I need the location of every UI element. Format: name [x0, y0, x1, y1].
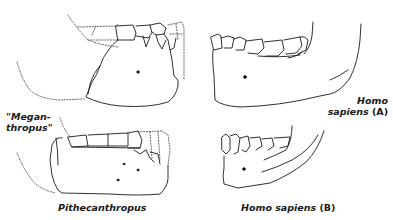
meganthropus-label: "Megan- thropus" — [6, 111, 53, 133]
homo-sapiens-a-label-line1: Homo — [328, 95, 388, 106]
meganthropus-label-line1: "Megan- — [6, 111, 53, 122]
homo-sapiens-a-label-line2: sapiens (A) — [328, 106, 388, 117]
jaw-comparison-figure: "Megan- thropus" Pithecanthropus Homo sa… — [0, 0, 393, 220]
homo-sapiens-b-suffix: (B) — [320, 202, 336, 213]
homo-sapiens-a-suffix: (A) — [372, 106, 388, 117]
homo-sapiens-a-species: sapiens — [328, 106, 369, 117]
homo-sapiens-b-mandible-drawing — [222, 126, 324, 188]
homo-sapiens-b-label: Homo sapiens (B) — [241, 202, 335, 213]
homo-sapiens-b-species: Homo sapiens — [241, 202, 316, 213]
meganthropus-label-line2: thropus" — [6, 122, 53, 133]
pithecanthropus-label: Pithecanthropus — [58, 202, 147, 213]
homo-sapiens-a-label: Homo sapiens (A) — [328, 95, 388, 117]
